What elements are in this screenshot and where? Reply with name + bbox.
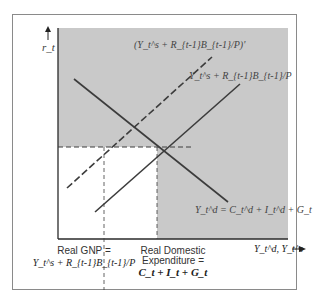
domestic-expenditure-formula: C_t + I_t + G_t bbox=[138, 267, 208, 278]
real-gnp-formula: Y_t^s + R_{t-1}B_{t-1}/P bbox=[20, 258, 148, 268]
supply-label: Y_t^s + R_{t-1}B_{t-1}/P bbox=[189, 71, 292, 81]
demand-label: Y_t^d = C_t^d + I_t^d + G_t bbox=[195, 205, 312, 215]
real-gnp-title: Real GNP = bbox=[20, 246, 148, 256]
y-axis-arrow-icon bbox=[45, 26, 51, 40]
domestic-expenditure-annotation: Real Domestic Expenditure = C_t + I_t + … bbox=[138, 246, 208, 278]
x-axis-label: Y_t^d, Y_t^s bbox=[254, 244, 303, 254]
domestic-expenditure-line2: Expenditure = bbox=[138, 256, 208, 266]
unshaded-region bbox=[58, 147, 157, 239]
real-gnp-annotation: Real GNP = Y_t^s + R_{t-1}B_{t-1}/P bbox=[20, 246, 148, 268]
y-axis-label: r_t bbox=[42, 42, 55, 53]
supply-shifted-label: (Y_t^s + R_{t-1}B_{t-1}/P)' bbox=[134, 40, 245, 50]
